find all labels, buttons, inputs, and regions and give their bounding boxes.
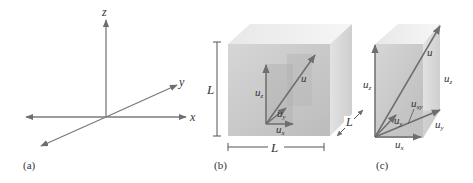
label-u-b: u	[301, 72, 307, 84]
panel-c-box: u uz uz uxy uy uy ux (c)	[363, 24, 453, 172]
panel-b-cube: u uz uy ux L L L (b)	[206, 24, 363, 172]
diagram-canvas: z x y (a) u uz uy ux L L L (b)	[0, 0, 473, 183]
caption-a: (a)	[23, 159, 36, 172]
label-uz-c: uz	[363, 78, 372, 92]
y-axis-positive	[106, 85, 177, 117]
z-axis-label: z	[101, 5, 107, 19]
y-axis-negative	[41, 117, 106, 146]
label-u-c: u	[427, 46, 433, 58]
label-height-L: L	[206, 82, 214, 97]
label-uz-side-c: uz	[444, 72, 453, 86]
panel-a-axes: z x y (a)	[23, 5, 196, 172]
caption-c: (c)	[376, 159, 389, 172]
label-ux-c: ux	[395, 138, 405, 152]
label-width-L: L	[270, 140, 278, 155]
label-depth-L: L	[345, 115, 353, 129]
label-uy-side-c: uy	[435, 118, 445, 132]
x-axis-label: x	[189, 110, 196, 124]
y-axis-label: y	[178, 75, 185, 89]
caption-b: (b)	[214, 159, 227, 172]
